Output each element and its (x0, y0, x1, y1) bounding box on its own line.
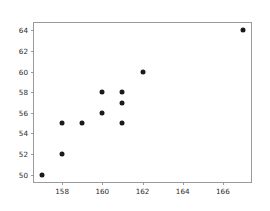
plot-axes: 5052545658606264 158160162164166 (33, 22, 252, 183)
x-tick-label: 160 (95, 187, 109, 196)
x-tick-label: 164 (176, 187, 190, 196)
y-tick-label: 56 (19, 108, 28, 117)
y-tick-label: 64 (19, 26, 28, 35)
x-tick-mark (102, 182, 103, 185)
x-tick-label: 162 (136, 187, 150, 196)
y-tick-label: 52 (19, 150, 28, 159)
x-tick-mark (223, 182, 224, 185)
y-tick-label: 60 (19, 67, 28, 76)
x-axis-ticks: 158160162164166 (34, 23, 251, 182)
y-tick-label: 62 (19, 46, 28, 55)
y-tick-label: 54 (19, 129, 28, 138)
x-tick-mark (183, 182, 184, 185)
y-tick-label: 50 (19, 170, 28, 179)
y-tick-label: 58 (19, 88, 28, 97)
x-tick-mark (143, 182, 144, 185)
scatter-plot-figure: 5052545658606264 158160162164166 (0, 0, 270, 211)
x-tick-label: 166 (216, 187, 230, 196)
x-tick-label: 158 (55, 187, 69, 196)
x-tick-mark (62, 182, 63, 185)
